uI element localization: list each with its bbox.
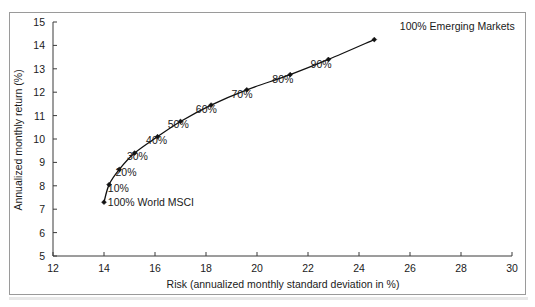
x-tick-label: 28 <box>455 262 467 274</box>
data-point-annotations: 100% Emerging Markets90%80%70%60%50%40%3… <box>108 20 515 208</box>
y-tick-label: 14 <box>33 39 45 51</box>
y-tick-label: 6 <box>39 227 45 239</box>
x-tick-label: 18 <box>200 262 212 274</box>
series-line <box>104 40 374 203</box>
point-annotation: 50% <box>168 118 189 130</box>
axis-spines <box>53 22 512 256</box>
x-tick-label: 20 <box>251 262 263 274</box>
x-tick-label: 26 <box>404 262 416 274</box>
point-annotation: 20% <box>115 166 136 178</box>
point-annotation: 40% <box>146 134 167 146</box>
y-tick-label: 9 <box>39 156 45 168</box>
data-point-marker <box>102 200 107 205</box>
point-annotation: 100% Emerging Markets <box>400 20 515 32</box>
y-tick-label: 12 <box>33 86 45 98</box>
frontier-curve <box>104 40 374 203</box>
x-tick-label: 12 <box>47 262 59 274</box>
x-axis-title: Risk (annualized monthly standard deviat… <box>167 278 400 290</box>
data-point-marker-glyph <box>102 200 107 205</box>
y-tick-label: 10 <box>33 133 45 145</box>
x-tick-label: 30 <box>506 262 518 274</box>
y-tick-label: 13 <box>33 63 45 75</box>
x-tick-label: 22 <box>302 262 314 274</box>
data-point-marker <box>372 37 377 42</box>
x-axis-ticks: 12141618202224262830 <box>47 252 518 274</box>
chart-screenshot: 12141618202224262830 56789101112131415 1… <box>0 0 535 307</box>
x-tick-label: 16 <box>149 262 161 274</box>
y-tick-label: 15 <box>33 16 45 28</box>
y-tick-label: 7 <box>39 203 45 215</box>
series-markers <box>102 37 377 204</box>
point-annotation: 30% <box>127 150 148 162</box>
y-tick-label: 5 <box>39 250 45 262</box>
axes <box>53 22 512 256</box>
y-tick-label: 8 <box>39 180 45 192</box>
point-annotation: 10% <box>108 182 129 194</box>
x-tick-label: 24 <box>353 262 365 274</box>
point-annotation: 80% <box>272 73 293 85</box>
point-annotation: 70% <box>232 88 253 100</box>
x-tick-label: 14 <box>98 262 110 274</box>
data-point-marker-glyph <box>372 37 377 42</box>
point-annotation: 100% World MSCI <box>108 196 194 208</box>
y-tick-label: 11 <box>34 110 45 122</box>
y-axis-title: Annualized monthly return (%) <box>12 69 24 210</box>
efficient-frontier-chart: 12141618202224262830 56789101112131415 1… <box>0 0 535 307</box>
point-annotation: 90% <box>311 58 332 70</box>
point-annotation: 60% <box>196 103 217 115</box>
